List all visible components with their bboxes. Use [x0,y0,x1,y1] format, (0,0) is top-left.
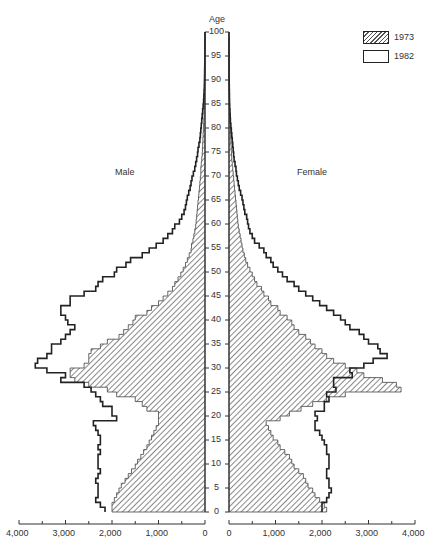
age-axis-title: Age [209,14,225,24]
female-x-tick-label: 3,000 [356,528,379,538]
age-tick-label: 0 [214,506,219,516]
age-tick-label: 15 [211,434,221,444]
female-x-tick-label: 1,000 [263,528,286,538]
age-tick-label: 5 [214,482,219,492]
age-tick-label: 60 [211,218,221,228]
female-1973-area [229,37,401,512]
legend-label-1982: 1982 [394,51,414,61]
age-tick-label: 20 [211,410,221,420]
male-x-tick-label: 4,000 [6,528,29,538]
age-tick-label: 40 [211,314,221,324]
age-tick-label: 80 [211,122,221,132]
age-tick-label: 95 [211,50,221,60]
legend-label-1973: 1973 [394,32,414,42]
female-label: Female [297,167,327,177]
female-x-tick-label: 4,000 [402,528,425,538]
age-tick-label: 100 [209,26,224,36]
age-tick-label: 70 [211,170,221,180]
age-tick-label: 85 [211,98,221,108]
male-x-tick-label: 2,000 [99,528,122,538]
age-tick-label: 35 [211,338,221,348]
age-tick-label: 65 [211,194,221,204]
age-tick-label: 55 [211,242,221,252]
male-x-tick-label: 1,000 [146,528,169,538]
male-x-tick-label: 3,000 [53,528,76,538]
age-tick-label: 50 [211,266,221,276]
age-tick-label: 90 [211,74,221,84]
age-tick-label: 75 [211,146,221,156]
age-tick-label: 45 [211,290,221,300]
legend-swatch-1982 [363,50,389,63]
female-x-tick-label: 0 [226,528,231,538]
male-label: Male [115,167,135,177]
legend-swatch-1973 [363,31,389,44]
age-tick-label: 30 [211,362,221,372]
female-x-tick-label: 2,000 [309,528,332,538]
male-1973-area [70,32,205,512]
age-tick-label: 25 [211,386,221,396]
male-x-tick-label: 0 [202,528,207,538]
age-tick-label: 10 [211,458,221,468]
